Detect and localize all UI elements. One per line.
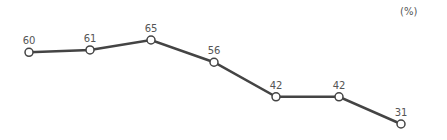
data-point-marker <box>147 36 155 44</box>
data-label: 31 <box>395 107 408 118</box>
data-label: 65 <box>145 23 158 34</box>
data-label: 42 <box>270 80 283 91</box>
line-chart: 60616556424231 <box>0 0 447 140</box>
data-point-marker <box>335 93 343 101</box>
data-label: 42 <box>333 80 346 91</box>
data-point-marker <box>86 46 94 54</box>
data-label: 56 <box>208 45 221 56</box>
data-label: 60 <box>23 35 36 46</box>
data-point-marker <box>25 48 33 56</box>
data-point-marker <box>210 58 218 66</box>
data-point-marker <box>272 93 280 101</box>
data-label: 61 <box>84 33 97 44</box>
data-point-marker <box>397 120 405 128</box>
